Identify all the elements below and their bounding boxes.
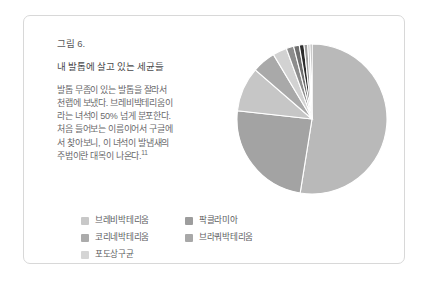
legend-swatch-icon [81, 251, 89, 259]
legend-swatch-icon [81, 217, 89, 225]
legend-label: 팍클라미아 [199, 216, 238, 225]
legend-item[interactable]: 브라쿼박테리움 [185, 229, 335, 246]
body-line: 처음 들어보는 이름이어서 구글에 [57, 123, 212, 136]
legend-swatch-icon [81, 234, 89, 242]
legend-label: 브레비박테리움 [95, 216, 149, 225]
footnote-marker: 11 [141, 149, 147, 156]
pie-slice [300, 44, 387, 194]
legend-item[interactable]: 브레비박테리움 [81, 212, 185, 229]
legend-label: 브라쿼박테리움 [199, 233, 253, 242]
legend-label: 포도상구균 [95, 250, 134, 259]
figure-body: 발톱 무좀이 있는 발톱을 잘라서 천랩에 보냈다. 브레비박테리움이 라는 녀… [57, 84, 212, 163]
figure-title: 내 발톱에 살고 있는 세균들 [57, 61, 212, 72]
legend-item[interactable]: 포도상구균 [81, 246, 185, 263]
legend-swatch-icon [185, 234, 193, 242]
body-line: 라는 녀석이 50% 넘게 분포한다. [57, 110, 212, 123]
legend-column-1: 브레비박테리움 코리네박테리움 포도상구균 [81, 212, 185, 263]
pie-chart [236, 43, 388, 195]
figure-caption: 그림 6. [57, 38, 212, 49]
figure-text-column: 그림 6. 내 발톱에 살고 있는 세균들 발톱 무좀이 있는 발톱을 잘라서 … [57, 38, 212, 163]
pie-chart-svg [236, 43, 388, 195]
body-line-last: 주범이란 대목이 나온다.11 [57, 150, 212, 163]
figure-card: 그림 6. 내 발톱에 살고 있는 세균들 발톱 무좀이 있는 발톱을 잘라서 … [23, 15, 405, 264]
pie-slice-group [237, 44, 387, 194]
pie-slice [237, 111, 312, 193]
body-line: 발톱 무좀이 있는 발톱을 잘라서 [57, 84, 212, 97]
body-line-text: 주범이란 대목이 나온다. [57, 151, 141, 161]
body-line: 서 찾아보니, 이 녀석이 발냄새의 [57, 137, 212, 150]
body-line: 천랩에 보냈다. 브레비박테리움이 [57, 97, 212, 110]
legend-label: 코리네박테리움 [95, 233, 149, 242]
legend-item[interactable]: 코리네박테리움 [81, 229, 185, 246]
legend-item[interactable]: 팍클라미아 [185, 212, 335, 229]
chart-legend: 브레비박테리움 코리네박테리움 포도상구균 팍클라미아 브라 [81, 212, 381, 263]
page-root: 그림 6. 내 발톱에 살고 있는 세균들 발톱 무좀이 있는 발톱을 잘라서 … [0, 0, 429, 281]
legend-column-2: 팍클라미아 브라쿼박테리움 [185, 212, 335, 263]
legend-swatch-icon [185, 217, 193, 225]
